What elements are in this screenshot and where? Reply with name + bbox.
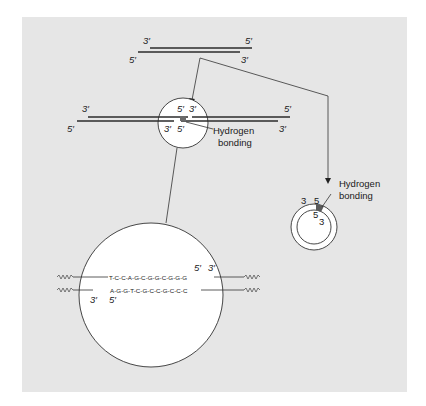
joined-label-outer-top-right: 5′ bbox=[284, 103, 292, 114]
top-duplex-label-3-prime: 3′ bbox=[143, 35, 151, 46]
top-duplex-label-5-prime-lower: 5′ bbox=[129, 54, 137, 65]
joined-label-outer-bottom-right: 3′ bbox=[279, 123, 287, 134]
junction-label-bottom-3-prime: 3′ bbox=[164, 123, 172, 134]
hydrogen-bond-block bbox=[180, 116, 186, 121]
magnified-label-top-5-prime: 5′ bbox=[194, 262, 202, 273]
circular-hydrogen-bonding-line1: Hydrogen bbox=[339, 178, 380, 189]
top-duplex-label-3-prime-lower: 3′ bbox=[241, 54, 249, 65]
bottom-sequence: A-G-G-T-C-G-C-C-G-C-C-C bbox=[110, 287, 188, 294]
joined-label-outer-top-left: 3′ bbox=[82, 103, 90, 114]
circular-label-outer-5: 5 bbox=[314, 195, 319, 206]
circular-hydrogen-bonding-line2: bonding bbox=[339, 190, 373, 201]
figure-panel bbox=[22, 17, 407, 392]
magnified-label-top-3-prime: 3′ bbox=[208, 262, 216, 273]
magnified-label-bottom-5-prime: 5′ bbox=[109, 294, 117, 305]
circular-label-inner-5: 5 bbox=[313, 209, 318, 220]
magnified-circle bbox=[79, 223, 223, 367]
top-duplex-label-5-prime: 5′ bbox=[245, 35, 253, 46]
magnified-label-bottom-3-prime: 3′ bbox=[90, 294, 98, 305]
hydrogen-bonding-label-line2: bonding bbox=[218, 137, 252, 148]
hydrogen-bonding-label-line1: Hydrogen bbox=[213, 125, 254, 136]
top-sequence: T-C-C-A-G-C-G-G-C-G-G-G bbox=[109, 274, 187, 281]
junction-label-top-3-prime: 3′ bbox=[189, 103, 197, 114]
junction-label-top-5-prime: 5′ bbox=[177, 103, 185, 114]
circular-label-outer-3: 3 bbox=[301, 195, 306, 206]
recombination-diagram: 3′ 5′ 5′ 3′ 3′ 5′ 5′ 3′ 5′ 3′ 3′ 5′ Hydr… bbox=[0, 0, 426, 406]
joined-label-outer-bottom-left: 5′ bbox=[67, 123, 75, 134]
junction-label-bottom-5-prime: 5′ bbox=[177, 123, 185, 134]
circular-label-inner-3: 3 bbox=[319, 216, 324, 227]
